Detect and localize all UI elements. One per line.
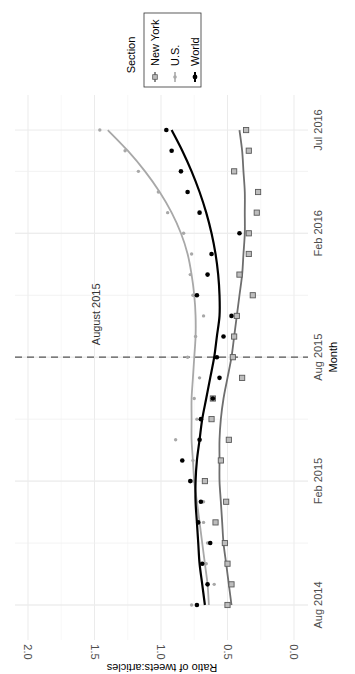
legend-label: New York xyxy=(149,19,161,66)
data-point xyxy=(244,127,249,132)
data-point xyxy=(188,479,193,484)
data-point xyxy=(246,231,251,236)
data-point xyxy=(213,583,216,586)
data-point xyxy=(237,231,242,236)
data-point xyxy=(218,458,223,463)
month-axis-ticks: Aug 2014Feb 2015Aug 2015Feb 2016Jul 2016 xyxy=(312,109,324,628)
data-point xyxy=(221,334,226,339)
august-2015-annotation-label: August 2015 xyxy=(90,283,102,345)
trend-line xyxy=(219,130,244,605)
data-point xyxy=(255,189,260,194)
legend-marker xyxy=(173,75,177,79)
data-point xyxy=(199,417,204,422)
data-point xyxy=(213,520,218,525)
data-point xyxy=(208,541,213,546)
data-point xyxy=(157,190,160,193)
data-point xyxy=(166,211,169,214)
data-point xyxy=(224,499,229,504)
data-point xyxy=(190,603,193,606)
data-point xyxy=(179,169,184,174)
value-tick-label: 1.5 xyxy=(89,644,101,659)
data-point xyxy=(195,293,200,298)
data-point xyxy=(230,355,235,360)
data-point xyxy=(196,520,201,525)
month-axis-title: Month xyxy=(327,342,339,373)
month-tick-label: Aug 2014 xyxy=(312,581,324,628)
data-point xyxy=(205,582,210,587)
data-point xyxy=(191,294,194,297)
data-point xyxy=(215,355,220,360)
data-point xyxy=(199,499,204,504)
data-point xyxy=(254,210,259,215)
data-point xyxy=(209,417,214,422)
data-point xyxy=(205,272,210,277)
value-tick-label: 0.5 xyxy=(222,644,234,659)
data-point xyxy=(202,521,205,524)
month-tick-label: Feb 2015 xyxy=(312,458,324,504)
data-point xyxy=(195,417,198,420)
data-point xyxy=(237,272,242,277)
legend: Section New YorkU.S.World xyxy=(125,13,201,87)
data-point xyxy=(232,334,237,339)
data-point xyxy=(198,376,201,379)
data-point xyxy=(197,210,202,215)
data-point xyxy=(197,438,202,443)
trend-line xyxy=(172,130,220,605)
legend-label: World xyxy=(189,37,201,66)
data-point xyxy=(225,602,230,607)
data-point xyxy=(169,148,174,153)
data-point xyxy=(190,252,193,255)
value-axis-ticks: 0.00.51.01.52.0 xyxy=(22,644,300,659)
month-tick-label: Feb 2016 xyxy=(312,210,324,256)
series-layer xyxy=(98,127,261,607)
rotated-line-chart: August 2015 0.00.51.01.52.0 Aug 2014Feb … xyxy=(0,0,355,674)
data-point xyxy=(232,169,237,174)
data-point xyxy=(205,562,208,565)
data-point xyxy=(191,459,194,462)
data-point xyxy=(209,252,214,257)
series-new-york xyxy=(202,127,260,607)
data-point xyxy=(195,603,200,608)
legend-marker xyxy=(153,75,158,80)
data-point xyxy=(174,438,177,441)
month-tick-label: Aug 2015 xyxy=(312,334,324,381)
value-tick-label: 1.0 xyxy=(155,644,167,659)
data-point xyxy=(246,148,251,153)
data-point xyxy=(200,561,205,566)
data-point xyxy=(182,232,185,235)
data-point xyxy=(98,128,101,131)
data-point xyxy=(226,437,231,442)
data-point xyxy=(217,376,222,381)
data-point xyxy=(225,561,230,566)
value-tick-label: 0.0 xyxy=(288,644,300,659)
data-point xyxy=(211,396,216,401)
data-point xyxy=(194,335,197,338)
legend-title: Section xyxy=(125,37,137,74)
data-point xyxy=(189,273,192,276)
data-point xyxy=(180,458,185,463)
data-point xyxy=(164,128,169,133)
data-point xyxy=(186,356,189,359)
legend-marker xyxy=(193,75,198,80)
data-point xyxy=(202,479,207,484)
data-point xyxy=(185,190,190,195)
data-point xyxy=(229,582,234,587)
data-point xyxy=(222,540,227,545)
data-point xyxy=(234,313,239,318)
data-point xyxy=(240,375,245,380)
data-point xyxy=(193,397,196,400)
value-tick-label: 2.0 xyxy=(22,644,34,659)
data-point xyxy=(137,170,140,173)
grid xyxy=(15,95,308,640)
data-point xyxy=(202,314,205,317)
trend-line xyxy=(108,130,209,605)
value-axis-title: Ratio of tweets:articles xyxy=(106,662,217,674)
month-tick-label: Jul 2016 xyxy=(312,109,324,151)
data-point xyxy=(250,293,255,298)
legend-label: U.S. xyxy=(169,45,181,66)
data-point xyxy=(229,314,234,319)
data-point xyxy=(123,149,126,152)
data-point xyxy=(246,251,251,256)
